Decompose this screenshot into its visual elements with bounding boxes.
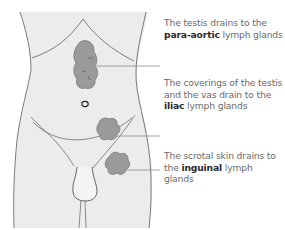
label-para-aortic-before: The testis drains to the <box>164 17 267 28</box>
label-iliac-bold: iliac <box>164 100 184 111</box>
label-iliac-before: The coverings of the testis and the vas … <box>164 77 282 100</box>
label-para-aortic: The testis drains to the para-aortic lym… <box>164 17 284 40</box>
para-aortic-gland-cluster <box>74 41 98 89</box>
label-iliac: The coverings of the testis and the vas … <box>164 77 284 112</box>
label-inguinal-bold: inguinal <box>181 162 222 173</box>
iliac-gland-cluster <box>97 118 120 140</box>
label-para-aortic-after: lymph glands <box>220 29 283 40</box>
label-iliac-after: lymph glands <box>184 100 247 111</box>
label-inguinal: The scrotal skin drains to the inguinal … <box>164 150 284 185</box>
lymph-drainage-diagram: The testis drains to the para-aortic lym… <box>0 0 285 230</box>
label-para-aortic-bold: para-aortic <box>164 29 220 40</box>
